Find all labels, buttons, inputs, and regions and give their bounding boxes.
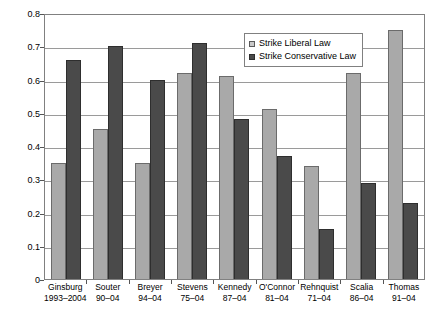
x-label-years: 91–04 — [383, 293, 425, 304]
bar-group — [45, 15, 87, 279]
y-tick-mark — [40, 14, 44, 15]
x-group-label: Souter90–04 — [87, 282, 129, 304]
y-tick-mark — [40, 147, 44, 148]
bar — [319, 229, 334, 279]
x-group-label: O'Connor81–04 — [256, 282, 298, 304]
y-tick-label: 0.1 — [10, 243, 40, 252]
bar-group — [382, 15, 424, 279]
x-label-years: 1993–2004 — [44, 293, 87, 304]
bar-chart: 00.10.20.30.40.50.60.70.8 Ginsburg1993–2… — [0, 0, 446, 334]
y-tick-label: 0 — [10, 276, 40, 285]
x-group-label: Scalia86–04 — [340, 282, 382, 304]
bar — [403, 203, 418, 279]
x-tick-mark — [171, 280, 172, 284]
legend-item-strike-conservative-law: Strike Conservative Law — [249, 50, 356, 63]
bar — [192, 43, 207, 279]
bars-layer — [45, 15, 424, 279]
x-label-name: Scalia — [340, 282, 382, 293]
x-label-name: Souter — [87, 282, 129, 293]
x-label-name: Ginsburg — [44, 282, 87, 293]
y-tick-mark — [40, 214, 44, 215]
bar — [388, 30, 403, 279]
bar — [177, 73, 192, 279]
x-label-name: Breyer — [129, 282, 171, 293]
x-label-years: 75–04 — [171, 293, 213, 304]
bar — [361, 183, 376, 279]
x-tick-mark — [340, 280, 341, 284]
bar — [304, 166, 319, 279]
x-group-label: Ginsburg1993–2004 — [44, 282, 87, 304]
y-axis: 00.10.20.30.40.50.60.70.8 — [10, 14, 40, 280]
legend-swatch-icon-conservative — [249, 54, 255, 60]
bar — [150, 80, 165, 280]
x-label-name: O'Connor — [256, 282, 298, 293]
x-axis: Ginsburg1993–2004Souter90–04Breyer94–04S… — [44, 282, 425, 304]
y-tick-mark — [40, 247, 44, 248]
y-tick-label: 0.6 — [10, 77, 40, 86]
bar — [93, 129, 108, 279]
x-label-years: 94–04 — [129, 293, 171, 304]
x-label-name: Thomas — [383, 282, 425, 293]
bar — [219, 76, 234, 279]
x-label-years: 81–04 — [256, 293, 298, 304]
x-group-label: Rehnquist71–04 — [298, 282, 340, 304]
x-tick-mark — [86, 280, 87, 284]
y-tick-mark — [40, 81, 44, 82]
bar — [346, 73, 361, 279]
bar — [135, 163, 150, 279]
x-label-name: Kennedy — [213, 282, 255, 293]
y-tick-label: 0.8 — [10, 10, 40, 19]
legend-label-liberal: Strike Liberal Law — [259, 38, 331, 49]
x-tick-mark — [129, 280, 130, 284]
bar — [262, 109, 277, 279]
bar-group — [87, 15, 129, 279]
y-tick-label: 0.5 — [10, 110, 40, 119]
x-label-name: Stevens — [171, 282, 213, 293]
y-tick-mark — [40, 180, 44, 181]
x-tick-mark — [213, 280, 214, 284]
y-tick-mark — [40, 280, 44, 281]
x-tick-mark — [383, 280, 384, 284]
legend-swatch-icon-liberal — [249, 41, 255, 47]
x-group-label: Kennedy87–04 — [213, 282, 255, 304]
x-group-label: Stevens75–04 — [171, 282, 213, 304]
bar-group — [129, 15, 171, 279]
y-tick-label: 0.7 — [10, 43, 40, 52]
x-label-years: 90–04 — [87, 293, 129, 304]
x-tick-mark — [256, 280, 257, 284]
legend-label-conservative: Strike Conservative Law — [259, 51, 356, 62]
bar — [51, 163, 66, 279]
legend-item-strike-liberal-law: Strike Liberal Law — [249, 37, 356, 50]
x-group-label: Thomas91–04 — [383, 282, 425, 304]
x-label-years: 87–04 — [213, 293, 255, 304]
x-label-years: 86–04 — [340, 293, 382, 304]
x-tick-mark — [298, 280, 299, 284]
y-tick-label: 0.3 — [10, 176, 40, 185]
y-tick-label: 0.4 — [10, 143, 40, 152]
bar — [277, 156, 292, 279]
x-label-years: 71–04 — [298, 293, 340, 304]
legend: Strike Liberal Law Strike Conservative L… — [244, 33, 363, 67]
bar — [108, 46, 123, 279]
plot-area — [44, 14, 425, 280]
bar-group — [171, 15, 213, 279]
bar — [234, 119, 249, 279]
x-label-name: Rehnquist — [298, 282, 340, 293]
y-tick-mark — [40, 114, 44, 115]
y-tick-mark — [40, 47, 44, 48]
bar — [66, 60, 81, 279]
x-group-label: Breyer94–04 — [129, 282, 171, 304]
y-tick-label: 0.2 — [10, 210, 40, 219]
